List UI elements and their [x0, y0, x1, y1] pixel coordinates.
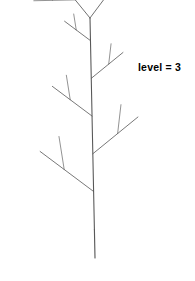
fractal-tree-figure: level = 3	[0, 0, 195, 281]
tree-branch	[7, 0, 90, 18]
tree-branch	[118, 105, 121, 134]
fractal-tree-canvas	[0, 0, 195, 281]
tree-branch	[34, 0, 75, 1]
tree-branch	[65, 21, 91, 40]
tree-branch	[59, 136, 64, 169]
tree-branch	[66, 75, 70, 99]
tree-branch	[52, 86, 92, 116]
tree-branch	[90, 18, 94, 229]
tree-branch	[74, 14, 77, 30]
tree-branch	[40, 151, 93, 191]
tree-branch	[93, 117, 138, 154]
tree-branch	[94, 229, 95, 258]
tree-branch	[91, 52, 123, 78]
level-label: level = 3	[138, 61, 181, 73]
tree-branch	[90, 0, 168, 18]
tree-branch	[109, 44, 111, 64]
